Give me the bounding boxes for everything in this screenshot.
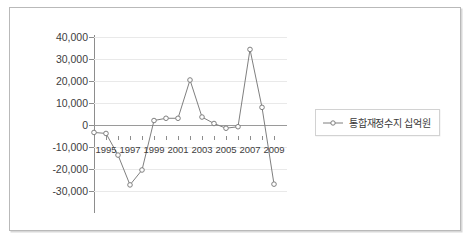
data-point-marker xyxy=(272,182,277,187)
legend-entry-label: 통합재정수지 십억원 xyxy=(349,115,431,130)
data-point-marker xyxy=(200,115,205,120)
data-point-marker xyxy=(224,126,229,131)
x-axis-tick xyxy=(202,136,203,140)
data-point-marker xyxy=(164,116,169,121)
x-axis-tick xyxy=(106,136,107,140)
y-axis-tick-label: -10,000 xyxy=(52,142,88,153)
x-axis-tick-label: 2005 xyxy=(215,144,236,155)
data-point-marker xyxy=(188,78,193,83)
data-point-marker xyxy=(176,116,181,121)
x-axis-tick xyxy=(142,136,143,140)
y-axis-tick-label: 30,000 xyxy=(56,54,88,65)
x-axis-tick-label: 1999 xyxy=(143,144,164,155)
x-axis-tick xyxy=(238,136,239,140)
x-axis-tick xyxy=(214,136,215,140)
x-axis-tick-label: 2001 xyxy=(167,144,188,155)
y-axis-tick-label: 20,000 xyxy=(56,76,88,87)
data-point-marker xyxy=(92,130,97,135)
x-axis-tick xyxy=(166,136,167,140)
y-axis-tick-label: 40,000 xyxy=(56,32,88,43)
x-axis-tick xyxy=(190,136,191,140)
x-axis-tick xyxy=(154,136,155,140)
x-axis-ticks-layer: 1995 1997 1999 2001 2003 2005 2007 2009 xyxy=(94,136,290,166)
chart-figure: 40,000 30,000 20,000 10,000 0 -10,000 -2… xyxy=(0,0,470,242)
data-point-marker xyxy=(260,105,265,110)
data-point-marker xyxy=(236,124,241,129)
x-axis-tick-label: 2009 xyxy=(263,144,284,155)
y-axis-label-column: 40,000 30,000 20,000 10,000 0 -10,000 -2… xyxy=(20,8,88,242)
y-axis-tick-label: 0 xyxy=(82,120,88,131)
data-series-svg xyxy=(94,37,294,217)
x-axis-tick xyxy=(130,136,131,140)
y-axis-tick-label: 10,000 xyxy=(56,98,88,109)
line-circle-marker-icon xyxy=(323,119,343,127)
chart-border-frame: 40,000 30,000 20,000 10,000 0 -10,000 -2… xyxy=(9,7,461,231)
x-axis-tick xyxy=(274,136,275,140)
x-axis-tick xyxy=(178,136,179,140)
data-point-marker xyxy=(152,118,157,123)
y-axis-tick-label: -20,000 xyxy=(52,164,88,175)
x-axis-tick-label: 1995 xyxy=(95,144,116,155)
x-axis-tick xyxy=(262,136,263,140)
x-axis-tick xyxy=(250,136,251,140)
data-point-marker xyxy=(140,168,145,173)
x-axis-tick-label: 2007 xyxy=(239,144,260,155)
x-axis-tick xyxy=(118,136,119,140)
y-axis-tick-label: -30,000 xyxy=(52,186,88,197)
x-axis-tick xyxy=(226,136,227,140)
data-point-marker xyxy=(248,47,253,52)
x-axis-tick xyxy=(94,136,95,140)
x-axis-tick-label: 2003 xyxy=(191,144,212,155)
data-point-marker xyxy=(128,183,133,188)
plot-area xyxy=(94,37,287,211)
x-axis-tick-label: 1997 xyxy=(119,144,140,155)
data-point-marker xyxy=(212,121,217,126)
chart-legend[interactable]: 통합재정수지 십억원 xyxy=(315,109,440,136)
series-markers-group xyxy=(92,47,277,187)
